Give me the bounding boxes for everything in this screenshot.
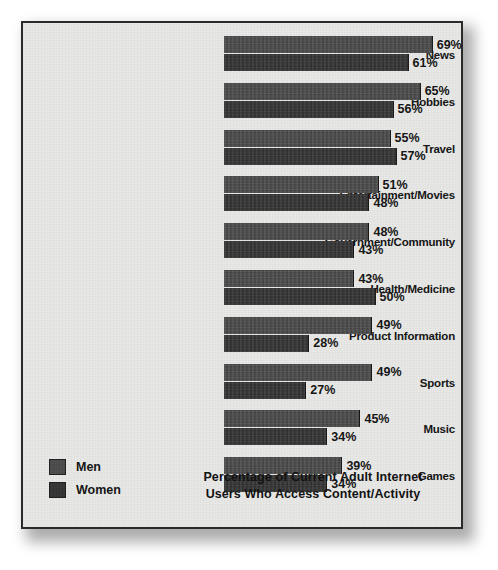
legend-label-men: Men	[76, 460, 101, 474]
bar-women	[224, 148, 397, 165]
chart-title: Percentage of Current Adult InternetUser…	[179, 469, 447, 505]
bar-group: Product Information49%28%	[23, 316, 461, 356]
bar-women	[224, 194, 369, 211]
bar-value-label: 34%	[326, 430, 356, 444]
bar-value-label: 45%	[359, 412, 389, 426]
bar-value-label: 55%	[390, 131, 420, 145]
bar-pair: 49%28%	[224, 316, 461, 356]
bar-women	[224, 54, 409, 71]
bar-pair: 43%50%	[224, 269, 461, 309]
chart-screenshot: News69%61%Hobbies65%56%Travel55%57%Enter…	[0, 0, 498, 570]
bar-value-label: 48%	[368, 196, 398, 210]
bar-pair: 48%43%	[224, 222, 461, 262]
bar-pair: 49%27%	[224, 363, 461, 403]
bar-men	[224, 364, 372, 381]
bar-value-label: 27%	[305, 383, 335, 397]
bar-group: Hobbies65%56%	[23, 82, 461, 122]
bar-value-label: 51%	[378, 178, 408, 192]
bar-value-label: 61%	[408, 56, 438, 70]
bar-group: Government/Community48%43%	[23, 222, 461, 262]
chart-title-line: Percentage of Current Adult Internet	[179, 469, 447, 487]
bar-value-label: 48%	[368, 225, 398, 239]
chart-title-line: Users Who Access Content/Activity	[179, 486, 447, 504]
bar-value-label: 28%	[308, 336, 338, 350]
bar-women	[224, 241, 354, 258]
bar-men	[224, 223, 369, 240]
bar-men	[224, 130, 391, 147]
bar-men	[224, 36, 433, 53]
bar-value-label: 57%	[396, 149, 426, 163]
bar-chart-plot: News69%61%Hobbies65%56%Travel55%57%Enter…	[23, 23, 461, 527]
bar-women	[224, 335, 309, 352]
bar-value-label: 50%	[375, 290, 405, 304]
legend-item-men: Men	[49, 459, 199, 475]
bar-men	[224, 317, 372, 334]
bar-value-label: 49%	[371, 365, 401, 379]
bar-value-label: 65%	[420, 84, 450, 98]
bar-pair: 69%61%	[224, 35, 461, 75]
bar-women	[224, 382, 306, 399]
bar-value-label: 69%	[432, 38, 462, 52]
bar-value-label: 43%	[353, 243, 383, 257]
bar-pair: 65%56%	[224, 82, 461, 122]
bar-women	[224, 428, 327, 445]
bar-group: Music45%34%	[23, 409, 461, 449]
bar-value-label: 49%	[371, 318, 401, 332]
chart-panel: News69%61%Hobbies65%56%Travel55%57%Enter…	[21, 21, 463, 529]
legend-label-women: Women	[76, 483, 121, 497]
bar-value-label: 56%	[393, 102, 423, 116]
bar-men	[224, 83, 421, 100]
legend-swatch-women	[49, 482, 66, 498]
bar-women	[224, 288, 376, 305]
bar-men	[224, 176, 379, 193]
bar-pair: 51%48%	[224, 175, 461, 215]
legend-swatch-men	[49, 459, 66, 475]
bar-value-label: 43%	[353, 272, 383, 286]
bar-men	[224, 410, 360, 427]
bar-women	[224, 101, 394, 118]
bar-pair: 45%34%	[224, 409, 461, 449]
bar-group: Health/Medicine43%50%	[23, 269, 461, 309]
legend-item-women: Women	[49, 482, 199, 498]
bar-group: Entertainment/Movies51%48%	[23, 175, 461, 215]
bar-pair: 55%57%	[224, 129, 461, 169]
bar-group: Sports49%27%	[23, 363, 461, 403]
chart-legend: MenWomen	[49, 459, 199, 505]
bar-group: Travel55%57%	[23, 129, 461, 169]
bar-men	[224, 270, 354, 287]
bar-group: News69%61%	[23, 35, 461, 75]
